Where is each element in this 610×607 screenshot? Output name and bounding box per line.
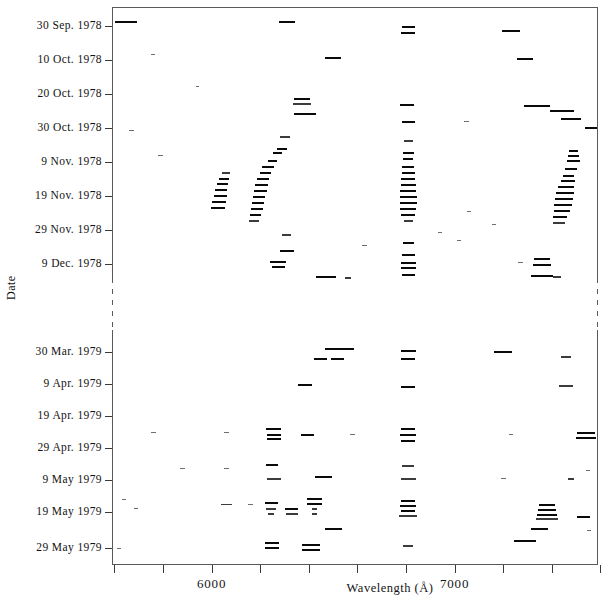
y-tick-label-4: 9 Nov. 1978 [41,156,102,168]
data-mark [262,166,274,168]
data-mark [325,348,341,350]
data-mark [401,350,416,352]
data-mark [569,150,578,152]
data-mark [403,152,414,154]
data-mark [533,264,551,266]
data-mark [341,348,354,350]
data-mark [158,155,163,156]
y-tick-14 [105,548,112,549]
x-tick-7000 [455,565,456,573]
data-mark [534,258,550,260]
data-mark [253,196,265,198]
data-mark [277,148,287,150]
data-mark [325,57,341,59]
data-mark [221,504,232,505]
data-mark [401,510,415,512]
data-mark [403,242,414,244]
y-tick-6 [105,230,112,231]
data-mark [565,168,577,170]
data-mark [222,172,230,174]
data-mark [555,198,573,200]
y-tick-label-0: 30 Sep. 1978 [37,20,102,32]
data-mark [553,216,567,218]
y-tick-label-13: 19 May 1979 [36,506,102,518]
data-mark [400,208,416,210]
data-mark [151,54,155,55]
data-mark [316,276,336,278]
y-tick-label-9: 9 Apr. 1979 [44,378,102,390]
x-tick-6000 [212,565,213,573]
data-mark [514,540,536,542]
data-marks-layer [112,7,598,565]
data-mark [314,358,327,360]
data-mark [286,513,298,515]
x-tick-6800 [406,565,407,573]
data-mark [401,178,415,180]
data-mark [402,254,415,256]
data-mark [402,26,415,28]
x-tick-6200 [260,565,261,573]
data-mark [577,432,595,434]
data-mark [268,160,277,162]
data-mark [279,21,295,23]
y-tick-5 [105,196,112,197]
data-mark [401,262,416,264]
spectral-occurrence-figure: 30 Sep. 197810 Oct. 197820 Oct. 197830 O… [0,0,610,607]
data-mark [401,184,416,186]
x-tick-6600 [357,565,358,573]
data-mark [438,232,442,233]
data-mark [122,499,126,500]
data-mark [307,498,322,500]
data-mark [401,386,415,388]
data-mark [467,211,471,212]
data-mark [255,184,268,186]
data-mark [494,351,512,353]
data-mark [267,438,281,440]
x-tick-7400 [552,565,553,573]
data-mark [401,500,415,502]
data-mark [531,528,548,530]
data-mark [400,202,417,204]
data-mark [401,32,415,34]
y-tick-label-3: 30 Oct. 1978 [37,122,102,134]
data-mark [312,513,317,515]
data-mark [403,545,413,547]
y-tick-label-7: 9 Dec. 1978 [42,258,102,270]
data-mark [559,385,573,387]
data-mark [402,121,415,123]
data-mark [254,190,267,192]
data-mark [224,432,229,433]
data-mark [587,530,591,531]
x-axis-title: Wavelength (Å) [347,581,434,596]
data-mark [260,172,271,174]
x-tick-6400 [309,565,310,573]
data-mark [517,58,533,60]
data-mark [273,152,282,154]
data-mark [217,183,228,185]
data-mark [401,428,415,430]
data-mark [315,476,332,478]
x-tick-label-7000: 7000 [440,577,469,590]
data-mark [266,428,281,430]
data-mark [129,130,134,131]
x-tick-7600 [600,565,601,573]
data-mark [211,207,225,209]
data-mark [180,468,185,469]
data-mark [568,155,579,157]
y-tick-12 [105,480,112,481]
data-mark [302,549,320,551]
data-mark [272,266,285,268]
y-tick-7 [105,264,112,265]
data-mark [212,201,226,203]
x-tick-label-6000: 6000 [197,577,226,590]
y-tick-3 [105,128,112,129]
data-mark [464,121,469,122]
data-mark [267,434,281,436]
y-tick-label-8: 30 Mar. 1979 [36,346,102,358]
y-tick-label-1: 10 Oct. 1978 [37,54,102,66]
data-mark [134,508,138,509]
data-mark [553,222,565,224]
data-mark [568,478,574,480]
data-mark [151,432,156,433]
data-mark [294,98,310,100]
